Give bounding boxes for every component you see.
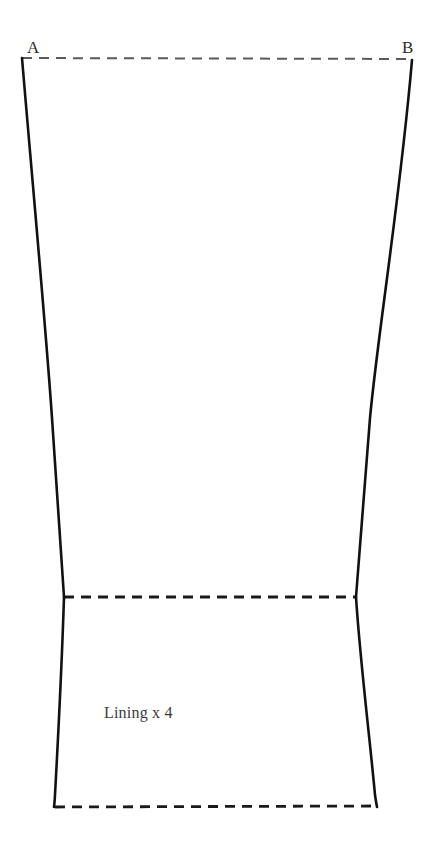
hem-dashed-line	[55, 806, 375, 807]
lower-right-seam	[356, 597, 377, 807]
lower-left-seam	[54, 597, 64, 807]
corner-label-b: B	[402, 39, 413, 56]
pattern-drawing	[0, 0, 432, 854]
corner-label-a: A	[27, 39, 39, 56]
right-side-seam	[356, 60, 412, 597]
left-side-seam	[22, 58, 64, 597]
pattern-sheet: A B Lining x 4	[0, 0, 432, 854]
piece-caption: Lining x 4	[104, 705, 173, 721]
top-edge-dashed-line	[22, 58, 412, 59]
